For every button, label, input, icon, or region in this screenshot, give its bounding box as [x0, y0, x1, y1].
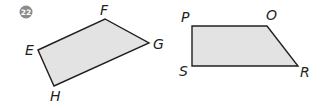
problem-number-badge: 22 [20, 6, 33, 19]
vertex-label-s: S [179, 63, 188, 79]
vertex-label-h: H [50, 88, 61, 104]
diagram-canvas: 22 E F G H P O R S [0, 0, 331, 108]
quadrilateral-posr: P O R S [179, 7, 310, 80]
vertex-label-f: F [100, 2, 109, 18]
vertex-label-g: G [153, 36, 164, 52]
quadrilateral-posr-shape [192, 26, 298, 66]
vertex-label-o: O [266, 7, 277, 23]
vertex-label-p: P [181, 9, 190, 25]
vertex-label-e: E [25, 42, 34, 58]
quadrilateral-efgh-shape [38, 19, 149, 86]
problem-number: 22 [21, 8, 31, 17]
quadrilateral-efgh: E F G H [25, 2, 164, 104]
vertex-label-r: R [300, 64, 310, 80]
